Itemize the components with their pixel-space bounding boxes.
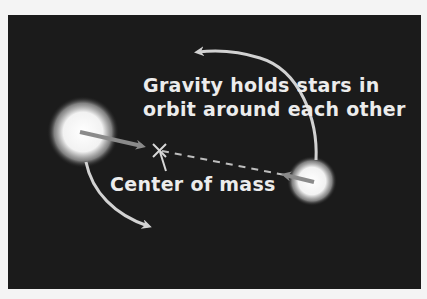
- center-of-mass-label: Center of mass: [110, 172, 276, 196]
- caption-line-2: orbit around each other: [143, 97, 406, 121]
- caption-line-1: Gravity holds stars in: [143, 73, 406, 97]
- caption: Gravity holds stars in orbit around each…: [143, 73, 406, 121]
- binary-star-diagram: [0, 0, 427, 299]
